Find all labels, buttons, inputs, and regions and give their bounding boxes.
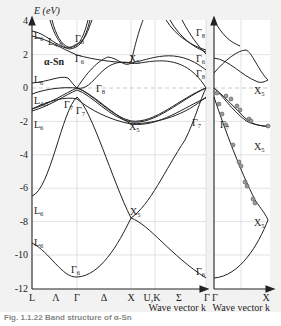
x-axis-label-right: Wave vector k [213, 302, 271, 312]
svg-text:0: 0 [23, 82, 28, 93]
svg-text:Γ: Γ [74, 292, 80, 303]
svg-text:-2: -2 [20, 116, 28, 127]
y-axis-ticks: 4 2 0 -2 -4 -6 -8 -10 -12 [15, 15, 28, 294]
material-label: α-Sn [44, 56, 64, 67]
svg-text:-4: -4 [20, 149, 28, 160]
svg-text:-10: -10 [15, 249, 28, 260]
svg-text:4: 4 [23, 15, 28, 26]
band-structure-figure: 4 2 0 -2 -4 -6 -8 -10 -12 E (eV) L Λ Γ Δ… [0, 0, 281, 312]
svg-text:L: L [29, 292, 35, 303]
svg-text:X: X [127, 292, 135, 303]
svg-text:-6: -6 [20, 182, 28, 193]
svg-text:Δ: Δ [101, 292, 108, 303]
x-axis-label-left: Wave vector k [149, 302, 207, 312]
y-axis-label: E (eV) [33, 5, 60, 17]
svg-text:-12: -12 [15, 283, 28, 294]
svg-text:-8: -8 [20, 216, 28, 227]
svg-text:Λ: Λ [52, 292, 60, 303]
svg-text:2: 2 [23, 49, 28, 60]
figure-caption: Fig. 1.1.22 Band structure of α-Sn [4, 313, 132, 322]
band-structure-plot: 4 2 0 -2 -4 -6 -8 -10 -12 E (eV) L Λ Γ Δ… [0, 0, 281, 312]
